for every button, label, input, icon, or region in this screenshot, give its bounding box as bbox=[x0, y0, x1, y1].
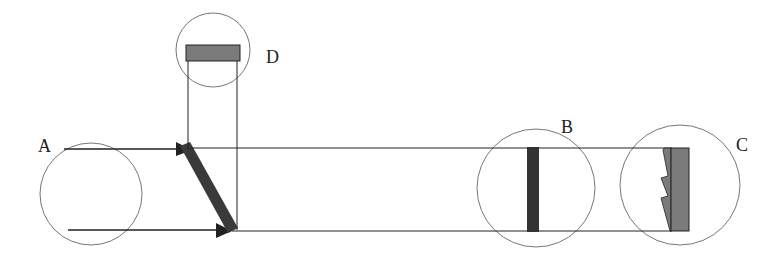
sample-B bbox=[527, 147, 539, 232]
mirror-C-profile bbox=[661, 148, 671, 231]
label-A: A bbox=[38, 137, 51, 155]
label-B: B bbox=[561, 118, 573, 136]
optical-diagram: A D B C bbox=[0, 0, 784, 264]
beamsplitter bbox=[180, 142, 238, 233]
mirror-C bbox=[671, 148, 689, 231]
label-C: C bbox=[736, 136, 748, 154]
label-D: D bbox=[266, 48, 279, 66]
detector-D bbox=[186, 45, 240, 61]
diagram-canvas bbox=[0, 0, 784, 264]
